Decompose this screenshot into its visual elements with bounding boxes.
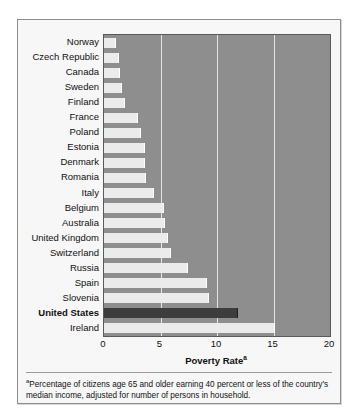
bar-row: Australia [104,216,330,231]
category-label-czech-republic: Czech Republic [32,49,99,64]
category-label-spain: Spain [75,275,99,290]
category-label-belgium: Belgium [65,200,99,215]
bar-canada [104,68,120,78]
bar-row: Czech Republic [104,50,330,65]
bar-row: Sweden [104,80,330,95]
footnote-text: Percentage of citizens age 65 and older … [26,380,328,400]
category-label-france: France [69,109,99,124]
bar-united-states [104,308,238,318]
category-label-united-kingdom: United Kingdom [31,230,99,245]
bar-spain [104,278,207,288]
x-tick-15: 15 [267,338,278,349]
bar-czech-republic [104,53,119,63]
bar-row: Canada [104,65,330,80]
bar-sweden [104,83,122,93]
bar-row: Russia [104,261,330,276]
bar-row: Finland [104,95,330,110]
bar-finland [104,98,125,108]
footnote-divider [26,372,332,373]
bar-row: Italy [104,186,330,201]
category-label-slovenia: Slovenia [63,290,99,305]
category-label-sweden: Sweden [65,79,99,94]
category-label-russia: Russia [70,260,99,275]
category-label-canada: Canada [66,64,99,79]
bar-row: Estonia [104,140,330,155]
footnote: aPercentage of citizens age 65 and older… [26,376,334,401]
category-label-italy: Italy [82,185,99,200]
bar-russia [104,263,188,273]
bar-row: Poland [104,125,330,140]
x-axis-tick-labels: 05101520 [103,338,329,352]
category-label-norway: Norway [67,34,99,49]
bar-estonia [104,143,145,153]
bar-slovenia [104,293,209,303]
bar-row: United Kingdom [104,231,330,246]
bar-row: Switzerland [104,246,330,261]
bar-switzerland [104,248,171,258]
category-label-poland: Poland [69,124,99,139]
x-tick-20: 20 [324,338,335,349]
x-tick-0: 0 [100,338,105,349]
category-label-finland: Finland [68,94,99,109]
bar-australia [104,218,165,228]
x-axis-title-superscript: a [243,354,247,361]
bar-row: Ireland [104,321,330,336]
category-label-denmark: Denmark [60,154,99,169]
category-label-estonia: Estonia [67,139,99,154]
bar-row: Belgium [104,201,330,216]
bar-row: United States [104,306,330,321]
bar-row: Norway [104,35,330,50]
x-tick-10: 10 [211,338,222,349]
bar-ireland [104,323,275,333]
bar-norway [104,38,116,48]
bar-row: Slovenia [104,291,330,306]
x-tick-5: 5 [157,338,162,349]
bar-united-kingdom [104,233,168,243]
category-label-united-states: United States [38,305,99,320]
bar-row: France [104,110,330,125]
x-axis-title-text: Poverty Rate [185,355,243,366]
chart-plot-container: NorwayCzech RepublicCanadaSwedenFinlandF… [18,20,340,355]
bar-row: Denmark [104,155,330,170]
category-label-ireland: Ireland [70,320,99,335]
bar-belgium [104,203,164,213]
bar-row: Romania [104,170,330,185]
chart-figure: NorwayCzech RepublicCanadaSwedenFinlandF… [17,19,341,404]
category-label-australia: Australia [62,215,99,230]
bar-romania [104,173,146,183]
x-axis-title: Poverty Ratea [103,354,329,366]
bar-france [104,113,138,123]
plot-area: NorwayCzech RepublicCanadaSwedenFinlandF… [103,34,331,337]
bar-poland [104,128,141,138]
bar-italy [104,188,154,198]
bar-row: Spain [104,276,330,291]
bar-denmark [104,158,145,168]
category-label-switzerland: Switzerland [50,245,99,260]
category-label-romania: Romania [61,169,99,184]
